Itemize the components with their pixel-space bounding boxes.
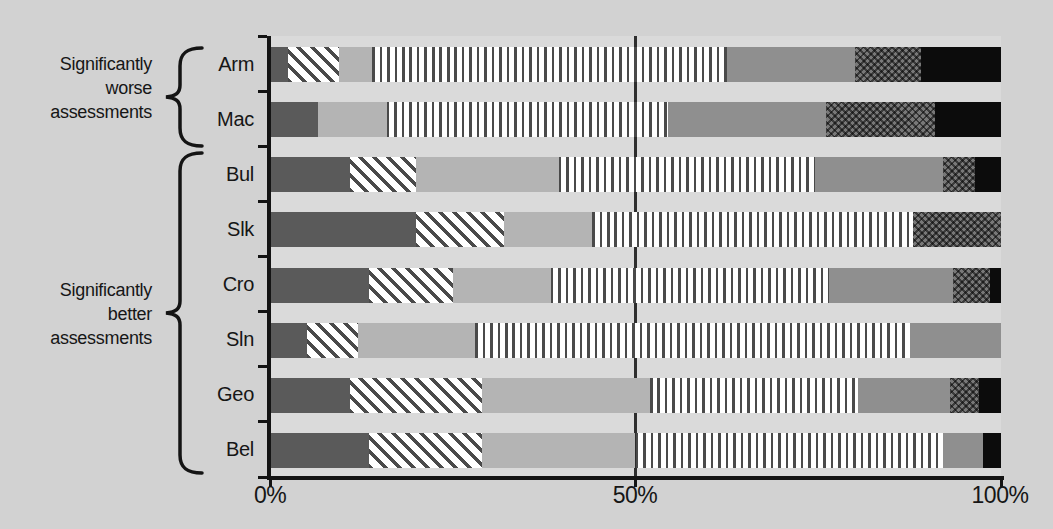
bar-segment-segment-1-dark-gray (270, 323, 307, 358)
bar-segment-segment-7-black (979, 378, 1001, 413)
bar-segment-segment-3-light-gray (416, 157, 559, 192)
bar-segment-segment-1-dark-gray (270, 378, 350, 413)
bar-segment-segment-6-crosshatch (943, 157, 976, 192)
y-axis-tick (258, 310, 267, 313)
bar-segment-segment-5-medium-gray (910, 323, 1001, 358)
bar-segment-segment-5-medium-gray (727, 47, 855, 82)
y-axis-tick (258, 200, 267, 203)
category-label-mac: Mac (100, 107, 254, 131)
x-tick-label-50: 50% (590, 482, 680, 509)
group-label-line: better (18, 302, 152, 326)
bar-segment-segment-3-light-gray (339, 47, 372, 82)
bar-segment-segment-6-crosshatch (953, 268, 990, 303)
bar-segment-segment-4-vertical-stripe (475, 323, 910, 358)
bar-segment-segment-2-diagonal-hatch (369, 268, 453, 303)
x-tick-label-100: 100% (955, 482, 1045, 509)
category-label-bel: Bel (100, 437, 254, 461)
bar-segment-segment-7-black (935, 102, 1001, 137)
bar-segment-segment-3-light-gray (318, 102, 387, 137)
bar-row-slk (270, 212, 1001, 247)
bar-row-geo (270, 378, 1001, 413)
bar-segment-segment-5-medium-gray (858, 378, 949, 413)
y-axis-tick (258, 90, 267, 93)
y-axis-tick (258, 35, 267, 38)
bar-segment-segment-6-crosshatch (913, 212, 1001, 247)
bar-segment-segment-3-light-gray (482, 433, 636, 468)
bar-segment-segment-5-medium-gray (815, 157, 943, 192)
bar-segment-segment-2-diagonal-hatch (369, 433, 482, 468)
bar-segment-segment-4-vertical-stripe (592, 212, 914, 247)
y-axis-tick (258, 420, 267, 423)
bar-segment-segment-5-medium-gray (668, 102, 825, 137)
bar-segment-segment-5-medium-gray (943, 433, 983, 468)
bar-segment-segment-3-light-gray (358, 323, 475, 358)
bar-segment-segment-3-light-gray (504, 212, 592, 247)
bar-row-mac (270, 102, 1001, 137)
brace-path (166, 153, 202, 473)
bar-row-arm (270, 47, 1001, 82)
bar-segment-segment-7-black (990, 268, 1001, 303)
category-label-cro: Cro (100, 272, 254, 296)
group-label-line: worse (18, 76, 152, 100)
bar-segment-segment-3-light-gray (482, 378, 650, 413)
bar-segment-segment-2-diagonal-hatch (288, 47, 339, 82)
bar-segment-segment-4-vertical-stripe (387, 102, 668, 137)
bar-segment-segment-4-vertical-stripe (650, 378, 858, 413)
category-label-slk: Slk (100, 217, 254, 241)
bar-row-bul (270, 157, 1001, 192)
category-label-arm: Arm (100, 52, 254, 76)
bar-segment-segment-4-vertical-stripe (551, 268, 829, 303)
y-axis-tick (258, 476, 267, 479)
bar-segment-segment-7-black (921, 47, 1001, 82)
brace-better-group (162, 151, 206, 475)
bar-segment-segment-4-vertical-stripe (636, 433, 943, 468)
bar-segment-segment-2-diagonal-hatch (307, 323, 358, 358)
bar-segment-segment-4-vertical-stripe (372, 47, 727, 82)
category-label-sln: Sln (100, 327, 254, 351)
plot-area (270, 36, 1001, 477)
bar-segment-segment-1-dark-gray (270, 433, 369, 468)
category-label-geo: Geo (100, 382, 254, 406)
bar-segment-segment-1-dark-gray (270, 102, 318, 137)
chart: Significantly worse assessments Signific… (0, 0, 1053, 529)
bar-segment-segment-1-dark-gray (270, 268, 369, 303)
category-label-bul: Bul (100, 162, 254, 186)
bar-segment-segment-2-diagonal-hatch (416, 212, 504, 247)
bar-row-sln (270, 323, 1001, 358)
bar-row-cro (270, 268, 1001, 303)
bar-segment-segment-6-crosshatch (950, 378, 979, 413)
bar-row-bel (270, 433, 1001, 468)
y-axis-line (267, 36, 271, 479)
y-axis-tick (258, 365, 267, 368)
bar-segment-segment-2-diagonal-hatch (350, 378, 482, 413)
bar-segment-segment-1-dark-gray (270, 212, 416, 247)
bar-segment-segment-1-dark-gray (270, 157, 350, 192)
bar-segment-segment-2-diagonal-hatch (350, 157, 416, 192)
bar-segment-segment-7-black (975, 157, 1001, 192)
bar-segment-segment-6-crosshatch (826, 102, 936, 137)
bar-segment-segment-4-vertical-stripe (559, 157, 815, 192)
y-axis-tick (258, 255, 267, 258)
bar-segment-segment-3-light-gray (453, 268, 552, 303)
bar-segment-segment-1-dark-gray (270, 47, 288, 82)
bar-segment-segment-5-medium-gray (829, 268, 953, 303)
bar-segment-segment-6-crosshatch (855, 47, 921, 82)
y-axis-tick (258, 145, 267, 148)
bar-segment-segment-7-black (983, 433, 1001, 468)
x-tick-label-0: 0% (225, 482, 315, 509)
